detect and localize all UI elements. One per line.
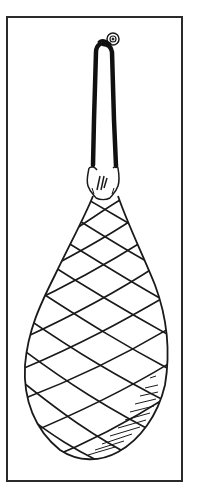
hanging-string xyxy=(93,41,116,166)
ham-knot xyxy=(87,167,119,200)
string-net xyxy=(10,195,197,475)
hanging-ham-illustration xyxy=(0,0,197,502)
